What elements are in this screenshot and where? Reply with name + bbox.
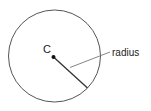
center-point [52, 55, 56, 59]
center-label: C [43, 43, 51, 55]
radius-label: radius [112, 47, 139, 58]
radius-line [54, 57, 88, 88]
circle-diagram: C radius [0, 0, 151, 111]
leader-line [70, 52, 110, 68]
